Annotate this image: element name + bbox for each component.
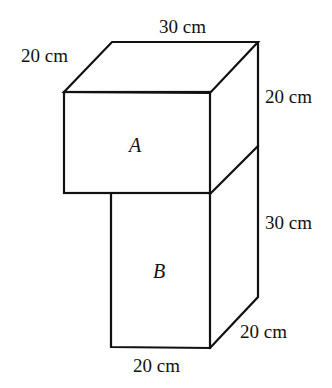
label-top-length: 30 cm bbox=[159, 16, 206, 37]
label-top-depth: 20 cm bbox=[21, 45, 68, 66]
label-b-height: 30 cm bbox=[265, 212, 312, 233]
cuboid-b-side-edges bbox=[210, 146, 258, 348]
label-cuboid-b: B bbox=[153, 260, 165, 282]
label-b-width: 20 cm bbox=[133, 355, 180, 376]
cuboid-a-top-face bbox=[64, 42, 258, 93]
cuboid-a bbox=[64, 42, 258, 194]
cuboid-a-side-edges bbox=[210, 42, 258, 194]
label-cuboid-a: A bbox=[127, 134, 142, 156]
cuboid-diagram: 30 cm 20 cm 20 cm A 30 cm B 20 cm 20 cm bbox=[0, 0, 332, 388]
cuboid-b bbox=[111, 146, 258, 348]
label-a-height: 20 cm bbox=[265, 86, 312, 107]
label-b-depth: 20 cm bbox=[240, 321, 287, 342]
